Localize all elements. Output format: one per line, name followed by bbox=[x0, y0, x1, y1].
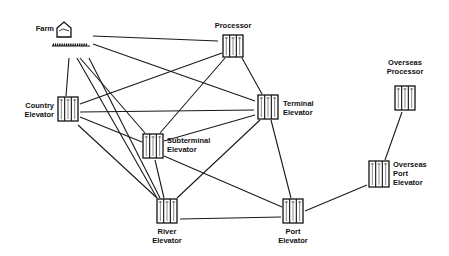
node-label-line: Processor bbox=[387, 67, 424, 76]
node-country: CountryElevator bbox=[24, 97, 78, 121]
node-label-line: Country bbox=[25, 101, 55, 110]
node-label-line: Overseas bbox=[388, 58, 422, 67]
node-label-farm: Farm bbox=[36, 24, 55, 33]
edge-overseas-port-to-overseas-processor bbox=[385, 112, 402, 160]
silo-icon bbox=[369, 161, 389, 187]
edge-terminal-to-port bbox=[271, 120, 291, 198]
node-label-line: Subterminal bbox=[167, 136, 210, 145]
edge-processor-to-country bbox=[80, 53, 222, 104]
node-label-processor: Processor bbox=[215, 21, 252, 30]
node-label-terminal: TerminalElevator bbox=[283, 99, 314, 117]
edge-processor-to-terminal bbox=[242, 58, 262, 94]
silo-icon bbox=[143, 134, 163, 158]
node-farm: Farm bbox=[36, 22, 90, 46]
node-processor: Processor bbox=[215, 21, 252, 57]
node-label-line: Elevator bbox=[24, 110, 54, 119]
node-label-line: Terminal bbox=[283, 99, 314, 108]
node-overseas-port: OverseasPortElevator bbox=[369, 160, 427, 187]
edge-country-to-terminal bbox=[80, 110, 254, 112]
node-label-line: Overseas bbox=[393, 160, 427, 169]
node-label-overseas-port: OverseasPortElevator bbox=[393, 160, 427, 187]
node-terminal: TerminalElevator bbox=[258, 95, 314, 119]
edge-country-to-subterminal bbox=[80, 117, 142, 142]
farm-field-grass bbox=[52, 44, 90, 47]
edge-farm-to-processor bbox=[93, 36, 218, 41]
nodes: FarmProcessorCountryElevatorTerminalElev… bbox=[24, 21, 426, 245]
node-label-line: Elevator bbox=[278, 236, 308, 245]
node-label-line: River bbox=[158, 227, 177, 236]
edge-farm-to-subterminal bbox=[80, 58, 145, 133]
node-label-line: Elevator bbox=[283, 108, 313, 117]
node-river: RiverElevator bbox=[152, 199, 182, 245]
node-label-line: Elevator bbox=[152, 236, 182, 245]
node-label-line: Farm bbox=[36, 24, 55, 33]
edge-terminal-to-river bbox=[177, 120, 260, 198]
edge-river-to-port bbox=[180, 217, 281, 219]
node-label-line: Port bbox=[393, 169, 409, 178]
grain-marketing-network-diagram: FarmProcessorCountryElevatorTerminalElev… bbox=[0, 0, 449, 256]
node-label-overseas-processor: OverseasProcessor bbox=[387, 58, 424, 76]
node-label-country: CountryElevator bbox=[24, 101, 54, 119]
node-label-line: Elevator bbox=[393, 178, 423, 187]
node-subterminal: SubterminalElevator bbox=[143, 134, 210, 158]
node-label-line: Port bbox=[286, 227, 302, 236]
silo-icon bbox=[395, 86, 415, 110]
node-label-subterminal: SubterminalElevator bbox=[167, 136, 210, 154]
edges bbox=[66, 36, 402, 219]
node-overseas-processor: OverseasProcessor bbox=[387, 58, 424, 110]
silo-icon bbox=[58, 97, 78, 121]
edge-farm-to-country bbox=[66, 58, 69, 96]
edge-processor-to-subterminal bbox=[160, 58, 225, 133]
node-label-line: Processor bbox=[215, 21, 252, 30]
silo-icon bbox=[223, 35, 243, 57]
edge-farm-to-river bbox=[77, 58, 157, 198]
node-label-river: RiverElevator bbox=[152, 227, 182, 245]
silo-icon bbox=[157, 199, 177, 223]
edge-port-to-overseas-port bbox=[305, 185, 367, 211]
edge-subterminal-to-port bbox=[164, 156, 282, 207]
silo-icon bbox=[283, 199, 303, 223]
node-label-line: Elevator bbox=[167, 145, 197, 154]
node-port: PortElevator bbox=[278, 199, 308, 245]
edge-subterminal-to-river bbox=[155, 160, 164, 198]
node-label-port: PortElevator bbox=[278, 227, 308, 245]
silo-icon bbox=[258, 95, 278, 119]
